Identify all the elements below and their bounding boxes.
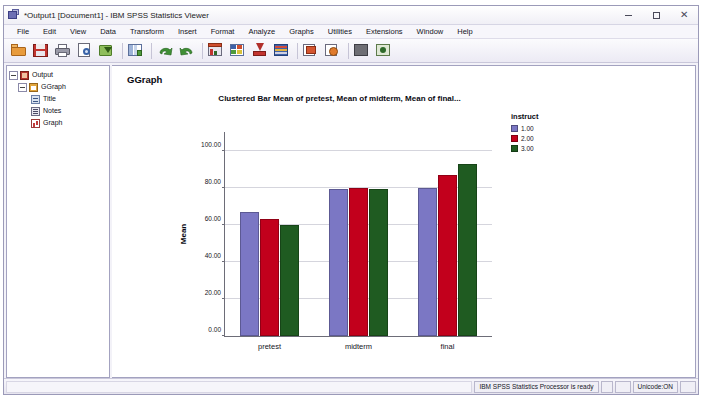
legend-item[interactable]: 2.00 <box>502 134 560 143</box>
legend-swatch <box>511 125 518 132</box>
go-to-case-button[interactable] <box>206 41 226 61</box>
toolbar-separator <box>122 43 123 59</box>
outline-node-label: Notes <box>43 106 61 116</box>
print-button[interactable] <box>53 41 73 61</box>
menu-data[interactable]: Data <box>93 25 123 39</box>
window-controls: ✕ <box>614 6 698 25</box>
outline-node-title[interactable]: Title <box>9 93 107 105</box>
bar-final-2.00[interactable] <box>438 175 457 336</box>
redo-button[interactable] <box>177 41 197 61</box>
menu-utilities[interactable]: Utilities <box>321 25 359 39</box>
status-bar: IBM SPSS Statistics Processor is ready U… <box>4 378 698 394</box>
bar-group: final <box>403 132 492 336</box>
clustered-bar-chart[interactable]: Clustered Bar Mean of pretest, Mean of m… <box>162 94 562 378</box>
insert-new-button[interactable] <box>250 41 270 61</box>
show-icon <box>376 43 392 58</box>
y-tick-label: 0.00 <box>208 326 221 333</box>
go-to-data-icon <box>128 43 144 58</box>
bar-final-1.00[interactable] <box>418 188 437 336</box>
promote-button[interactable] <box>301 41 321 61</box>
bar-midterm-3.00[interactable] <box>369 189 388 336</box>
legend-item[interactable]: 1.00 <box>502 124 560 133</box>
run-descriptives-button[interactable] <box>272 41 292 61</box>
menu-help[interactable]: Help <box>450 25 479 39</box>
chart-legend: instruct 1.002.003.00 <box>502 112 560 154</box>
toolbar-separator <box>202 43 203 59</box>
bar-midterm-1.00[interactable] <box>329 189 348 336</box>
bar-groups: pretestmidtermfinal <box>225 132 492 336</box>
bar-final-3.00[interactable] <box>458 164 477 336</box>
outline-node-ggraph[interactable]: GGraph <box>9 81 107 93</box>
menu-extensions[interactable]: Extensions <box>359 25 410 39</box>
menu-transform[interactable]: Transform <box>123 25 171 39</box>
legend-items: 1.002.003.00 <box>502 124 560 153</box>
status-spacer <box>6 381 472 393</box>
promote-icon <box>303 43 319 58</box>
outline-node-label: Output <box>32 70 53 80</box>
viewer-body: Output GGraph Title <box>4 63 698 378</box>
save-button[interactable] <box>31 41 51 61</box>
undo-icon <box>157 44 173 58</box>
open-file-button[interactable] <box>9 41 29 61</box>
bar-pretest-2.00[interactable] <box>260 219 279 336</box>
bar-pretest-3.00[interactable] <box>280 225 299 336</box>
save-icon <box>33 43 49 58</box>
menu-view[interactable]: View <box>63 25 93 39</box>
bar-midterm-2.00[interactable] <box>349 188 368 336</box>
menu-format[interactable]: Format <box>204 25 242 39</box>
maximize-button[interactable] <box>642 6 670 24</box>
menu-graphs[interactable]: Graphs <box>282 25 321 39</box>
menu-insert[interactable]: Insert <box>171 25 204 39</box>
title-bar: *Output1 [Document1] - IBM SPSS Statisti… <box>4 6 698 25</box>
variables-button[interactable] <box>228 41 248 61</box>
minimize-button[interactable] <box>614 6 642 24</box>
output-content-pane[interactable]: GGraph Clustered Bar Mean of pretest, Me… <box>112 65 696 378</box>
hide-icon <box>354 43 370 58</box>
go-to-data-button[interactable] <box>126 41 146 61</box>
legend-item[interactable]: 3.00 <box>502 144 560 153</box>
spss-viewer-screen: *Output1 [Document1] - IBM SPSS Statisti… <box>0 0 702 401</box>
print-icon <box>55 43 71 58</box>
menu-analyze[interactable]: Analyze <box>241 25 282 39</box>
legend-swatch <box>511 145 518 152</box>
expander-icon[interactable] <box>9 71 18 80</box>
outline-node-graph[interactable]: Graph <box>9 117 107 129</box>
undo-button[interactable] <box>155 41 175 61</box>
redo-icon <box>179 44 195 58</box>
y-tick-label: 100.00 <box>201 140 221 147</box>
menu-bar: File Edit View Data Transform Insert For… <box>4 25 698 39</box>
outline-node-output[interactable]: Output <box>9 69 107 81</box>
outline-node-label: Graph <box>43 118 62 128</box>
legend-label: 3.00 <box>521 145 534 152</box>
y-axis-label: Mean <box>179 224 188 244</box>
expander-icon[interactable] <box>18 83 27 92</box>
menu-edit[interactable]: Edit <box>36 25 63 39</box>
x-tick-label: midterm <box>314 342 403 351</box>
print-preview-button[interactable] <box>75 41 95 61</box>
hide-button[interactable] <box>352 41 372 61</box>
outline-node-label: GGraph <box>41 82 66 92</box>
y-tick-label: 40.00 <box>205 251 221 258</box>
notes-icon <box>31 107 40 116</box>
y-tick-label: 20.00 <box>205 288 221 295</box>
ggraph-heading: GGraph <box>127 74 162 85</box>
export-button[interactable] <box>97 41 117 61</box>
menu-window[interactable]: Window <box>410 25 451 39</box>
demote-button[interactable] <box>323 41 343 61</box>
spss-viewer-icon <box>8 9 20 21</box>
legend-label: 1.00 <box>521 125 534 132</box>
outline-node-notes[interactable]: Notes <box>9 105 107 117</box>
status-cell-blank-2 <box>615 381 631 393</box>
close-button[interactable]: ✕ <box>670 6 698 24</box>
outline-pane[interactable]: Output GGraph Title <box>6 65 110 378</box>
menu-file[interactable]: File <box>10 25 36 39</box>
show-button[interactable] <box>374 41 394 61</box>
bar-pretest-1.00[interactable] <box>240 212 259 336</box>
x-tick-label: pretest <box>225 342 314 351</box>
window-title: *Output1 [Document1] - IBM SPSS Statisti… <box>24 11 209 20</box>
status-cell-blank-3 <box>680 381 696 393</box>
bar-group: pretest <box>225 132 314 336</box>
unicode-status: Unicode:ON <box>633 381 678 393</box>
bar-group: midterm <box>314 132 403 336</box>
demote-icon <box>325 43 341 58</box>
